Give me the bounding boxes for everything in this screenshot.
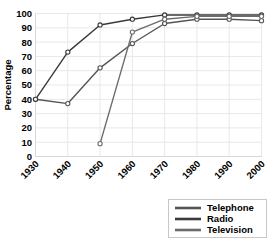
data-point-television [163,17,167,21]
x-tick-label: 1970 [147,158,170,181]
x-tick-label: 1930 [18,158,41,181]
data-point-telephone [98,66,102,70]
y-tick-label: 100 [16,8,32,19]
x-tick-label: 1980 [180,158,203,181]
data-point-radio [98,23,102,27]
legend-label-telephone: Telephone [207,202,254,213]
data-point-telephone [66,101,70,105]
data-point-telephone [163,21,167,25]
data-point-television [98,142,102,146]
y-tick-label: 20 [21,122,32,133]
data-point-television [259,14,263,18]
y-axis-label: Percentage [2,59,13,110]
x-tick-label: 1950 [83,158,106,181]
x-axis-ticks: 19301940195019601970198019902000 [18,158,267,181]
data-point-television [195,14,199,18]
data-point-television [227,14,231,18]
y-tick-label: 60 [21,65,32,76]
y-tick-label: 90 [21,22,32,33]
data-point-telephone [130,41,134,45]
y-axis-ticks: 0102030405060708090100 [16,8,32,162]
data-point-radio [163,13,167,17]
data-point-radio [33,97,37,101]
y-tick-label: 10 [21,137,32,148]
y-tick-label: 50 [21,79,32,90]
x-tick-label: 1960 [115,158,138,181]
x-tick-label: 1990 [212,158,235,181]
x-tick-label: 1940 [50,158,73,181]
legend-label-radio: Radio [207,213,234,224]
legend-label-television: Television [207,224,253,235]
data-point-television [130,30,134,34]
y-tick-label: 30 [21,108,32,119]
data-point-radio [66,50,70,54]
data-point-radio [130,17,134,21]
y-tick-label: 80 [21,37,32,48]
line-chart: 0102030405060708090100 19301940195019601… [0,0,275,242]
y-tick-label: 40 [21,94,32,105]
data-point-telephone [259,19,263,23]
chart-canvas: 0102030405060708090100 19301940195019601… [0,0,275,242]
y-tick-label: 70 [21,51,32,62]
x-tick-label: 2000 [244,158,267,181]
legend: TelephoneRadioTelevision [169,200,267,238]
